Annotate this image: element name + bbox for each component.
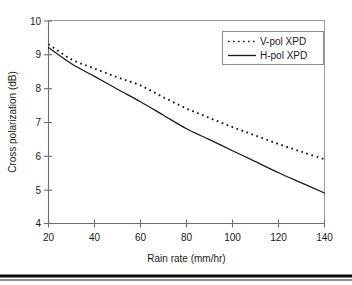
- y-tick-label: 4: [35, 218, 41, 229]
- y-tick-label: 9: [35, 49, 41, 60]
- y-tick-label: 5: [35, 185, 41, 196]
- x-tick-label: 60: [135, 232, 147, 243]
- chart-legend: V-pol XPD H-pol XPD: [223, 32, 324, 65]
- x-tick-label: 120: [270, 232, 287, 243]
- y-tick-label: 7: [35, 117, 41, 128]
- y-tick-label: 10: [30, 16, 42, 27]
- figure-container: 10 9 8 7 6 5 4 20 40 60 80 100: [0, 0, 352, 285]
- x-tick-label: 80: [181, 232, 193, 243]
- legend-label-h-pol: H-pol XPD: [260, 50, 307, 61]
- x-tick-label: 100: [224, 232, 241, 243]
- x-tick-label: 140: [316, 232, 333, 243]
- series-line-h-pol-xpd: [49, 48, 325, 193]
- x-tick-label: 40: [89, 232, 101, 243]
- y-tick-label: 6: [35, 151, 41, 162]
- x-axis-title: Rain rate (mm/hr): [147, 253, 225, 264]
- cross-polarization-chart: 10 9 8 7 6 5 4 20 40 60 80 100: [0, 0, 352, 285]
- y-tick-label: 8: [35, 83, 41, 94]
- legend-label-v-pol: V-pol XPD: [260, 36, 306, 47]
- y-axis-title: Cross polarization (dB): [7, 71, 18, 173]
- x-tick-label: 20: [43, 232, 55, 243]
